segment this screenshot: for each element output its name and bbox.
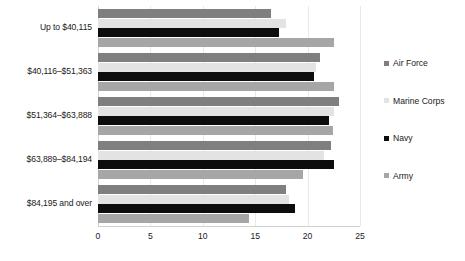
legend-label: Navy xyxy=(393,133,413,143)
bar xyxy=(98,141,331,150)
y-axis-label: $40,116–$51,363 xyxy=(0,66,92,76)
x-axis-tick-label: 0 xyxy=(96,231,101,241)
legend-label: Army xyxy=(393,171,413,181)
bar xyxy=(98,195,289,204)
legend-label: Marine Corps xyxy=(393,96,445,106)
legend-item[interactable]: Air Force xyxy=(384,58,428,68)
bar xyxy=(98,9,271,18)
x-axis-tick-label: 25 xyxy=(355,231,365,241)
bar xyxy=(98,72,314,81)
bar xyxy=(98,97,339,106)
bar xyxy=(98,63,316,72)
bar xyxy=(98,38,334,47)
bar xyxy=(98,53,320,62)
bar xyxy=(98,151,324,160)
x-axis-tick-label: 5 xyxy=(148,231,153,241)
x-axis: 0510152025 xyxy=(98,226,360,229)
y-axis-label: $63,889–$84,194 xyxy=(0,154,92,164)
y-axis-label: $84,195 and over xyxy=(0,198,92,208)
plot-area xyxy=(98,6,360,226)
bar xyxy=(98,107,334,116)
bar xyxy=(98,185,286,194)
bar xyxy=(98,214,249,223)
x-axis-tick-label: 10 xyxy=(198,231,208,241)
bar-group xyxy=(98,138,360,182)
bar xyxy=(98,19,286,28)
legend-swatch-icon xyxy=(384,98,389,103)
legend-item[interactable]: Navy xyxy=(384,133,413,143)
bar-chart: Up to $40,115$40,116–$51,363$51,364–$63,… xyxy=(0,0,465,261)
x-axis-tick-label: 15 xyxy=(250,231,260,241)
bar xyxy=(98,82,334,91)
legend-swatch-icon xyxy=(384,136,389,141)
y-axis-label: $51,364–$63,888 xyxy=(0,110,92,120)
bar xyxy=(98,28,279,37)
x-axis-tick-label: 20 xyxy=(303,231,313,241)
bar xyxy=(98,170,303,179)
bar xyxy=(98,126,333,135)
legend-label: Air Force xyxy=(393,58,428,68)
bar xyxy=(98,116,329,125)
legend-swatch-icon xyxy=(384,173,389,178)
bar-group xyxy=(98,50,360,94)
bar xyxy=(98,204,295,213)
gridline-25 xyxy=(360,6,361,226)
bar xyxy=(98,160,334,169)
legend-item[interactable]: Army xyxy=(384,171,413,181)
bar-group xyxy=(98,182,360,226)
y-axis-category-labels: Up to $40,115$40,116–$51,363$51,364–$63,… xyxy=(0,0,92,232)
bar-group xyxy=(98,94,360,138)
legend-item[interactable]: Marine Corps xyxy=(384,96,445,106)
legend-swatch-icon xyxy=(384,61,389,66)
y-axis-label: Up to $40,115 xyxy=(0,22,92,32)
bar-group xyxy=(98,6,360,50)
